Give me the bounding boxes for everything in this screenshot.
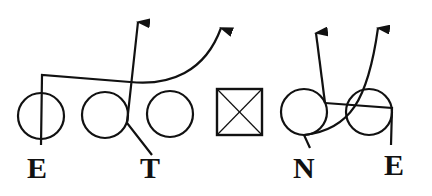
center-square bbox=[217, 89, 262, 135]
play-diagram bbox=[0, 0, 432, 196]
player-guard bbox=[147, 91, 193, 137]
player-right-end bbox=[346, 89, 392, 135]
label-nose: N bbox=[293, 153, 315, 183]
route-left-tackle bbox=[127, 22, 152, 155]
player-nose bbox=[281, 89, 327, 135]
player-left-tackle bbox=[82, 92, 128, 138]
label-tackle: T bbox=[140, 153, 160, 183]
label-right-end: E bbox=[384, 150, 404, 180]
label-left-end: E bbox=[27, 153, 47, 183]
